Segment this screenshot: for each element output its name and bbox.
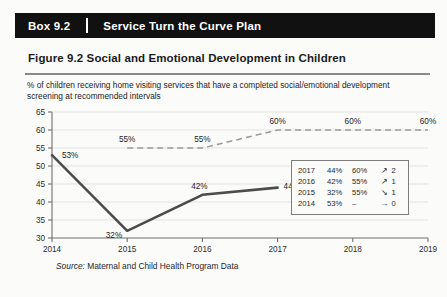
svg-text:42%: 42% (191, 182, 207, 191)
svg-text:32%: 32% (106, 231, 122, 240)
figure-title: Figure 9.2 Social and Emotional Developm… (28, 52, 346, 64)
table-row: 201744%60%↗2 (298, 165, 402, 176)
box-header-bar: Box 9.2 Service Turn the Curve Plan (15, 13, 435, 38)
svg-text:53%: 53% (62, 151, 78, 160)
cell-target: – (352, 199, 377, 210)
svg-text:60%: 60% (420, 117, 436, 126)
cell-trend-arrow: ↗ (377, 176, 392, 187)
box-number-label: Box 9.2 (28, 20, 70, 32)
line-chart: 3035404550556065 20142015201620172018201… (0, 0, 447, 297)
cell-year: 2016 (298, 176, 327, 187)
svg-text:45: 45 (36, 180, 46, 189)
cell-count: 1 (392, 187, 402, 198)
svg-text:2017: 2017 (268, 245, 287, 254)
box-title-label: Service Turn the Curve Plan (103, 20, 261, 32)
title-divider-rule (25, 73, 430, 75)
svg-text:55: 55 (36, 144, 46, 153)
svg-text:60: 60 (36, 126, 46, 135)
svg-text:2016: 2016 (193, 245, 212, 254)
svg-text:60%: 60% (269, 117, 285, 126)
cell-actual: 53% (327, 199, 352, 210)
figure-subtitle: % of children receiving home visiting se… (27, 80, 425, 102)
cell-year: 2014 (298, 199, 327, 210)
header-divider (86, 18, 88, 33)
cell-trend-arrow: → (377, 199, 392, 210)
chart-svg: 3035404550556065 20142015201620172018201… (0, 0, 447, 297)
source-label: Source: (56, 261, 85, 271)
svg-text:55%: 55% (119, 135, 135, 144)
cell-year: 2017 (298, 165, 327, 176)
data-summary-table: 201744%60%↗2201642%55%↗1201532%55%↘12014… (291, 160, 409, 215)
svg-text:2019: 2019 (419, 245, 438, 254)
svg-text:40: 40 (36, 198, 46, 207)
series-target-line (127, 130, 428, 148)
svg-text:30: 30 (36, 234, 46, 243)
cell-count: 1 (392, 176, 402, 187)
cell-trend-arrow: ↗ (377, 165, 392, 176)
x-axis-ticks: 201420152016201720182019 (43, 238, 438, 254)
svg-text:2015: 2015 (118, 245, 137, 254)
cell-actual: 44% (327, 165, 352, 176)
svg-text:35: 35 (36, 216, 46, 225)
table-row: 201642%55%↗1 (298, 176, 402, 187)
series-actual-line (52, 155, 278, 231)
figure-box: Box 9.2 Service Turn the Curve Plan Figu… (0, 0, 447, 297)
cell-count: 2 (392, 165, 402, 176)
table-row: 201532%55%↘1 (298, 187, 402, 198)
svg-text:2018: 2018 (344, 245, 363, 254)
table-row: 201453%–→0 (298, 199, 402, 210)
svg-text:55%: 55% (194, 135, 210, 144)
svg-text:2014: 2014 (43, 245, 62, 254)
cell-count: 0 (392, 199, 402, 210)
cell-trend-arrow: ↘ (377, 187, 392, 198)
source-value: Maternal and Child Health Program Data (85, 261, 239, 271)
source-note: Source: Maternal and Child Health Progra… (56, 261, 239, 271)
svg-text:65: 65 (36, 108, 46, 117)
cell-target: 60% (352, 165, 377, 176)
cell-target: 55% (352, 176, 377, 187)
cell-year: 2015 (298, 187, 327, 198)
svg-text:50: 50 (36, 162, 46, 171)
cell-target: 55% (352, 187, 377, 198)
summary-table: 201744%60%↗2201642%55%↗1201532%55%↘12014… (298, 165, 402, 210)
svg-text:60%: 60% (345, 117, 361, 126)
cell-actual: 42% (327, 176, 352, 187)
cell-actual: 32% (327, 187, 352, 198)
y-axis-ticks: 3035404550556065 (36, 108, 52, 243)
